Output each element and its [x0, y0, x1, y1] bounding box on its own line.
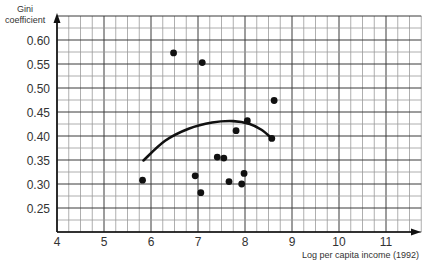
- x-axis-title: Log per capita income (1992): [302, 250, 419, 260]
- x-tick-label: 10: [332, 235, 346, 249]
- data-point: [271, 97, 278, 104]
- y-tick-label: 0.50: [27, 82, 51, 96]
- data-point: [238, 181, 245, 188]
- data-point: [244, 117, 251, 124]
- grid: [57, 16, 421, 232]
- data-point: [220, 155, 227, 162]
- y-tick-label: 0.55: [27, 58, 51, 72]
- data-point: [268, 135, 275, 142]
- x-tick-label: 6: [148, 235, 155, 249]
- data-point: [226, 178, 233, 185]
- y-axis-title-line1: Gini: [17, 4, 33, 14]
- data-point: [197, 189, 204, 196]
- x-tick-labels: 4567891011: [54, 235, 393, 249]
- data-point: [241, 170, 248, 177]
- y-tick-label: 0.45: [27, 106, 51, 120]
- x-tick-label: 5: [101, 235, 108, 249]
- x-tick-label: 8: [242, 235, 249, 249]
- y-tick-labels: 0.250.300.350.400.450.500.550.60: [27, 34, 51, 216]
- gini-income-chart: 4567891011 0.250.300.350.400.450.500.550…: [0, 0, 431, 271]
- data-point: [139, 177, 146, 184]
- x-tick-label: 7: [195, 235, 202, 249]
- data-point: [233, 127, 240, 134]
- x-axis-arrow-icon: [411, 229, 421, 236]
- data-point: [199, 59, 206, 66]
- data-point: [170, 50, 177, 57]
- y-tick-label: 0.40: [27, 130, 51, 144]
- y-tick-label: 0.25: [27, 202, 51, 216]
- x-tick-label: 9: [289, 235, 296, 249]
- y-axis-arrow-icon: [54, 13, 61, 23]
- y-axis-title-line2: coefficient: [5, 15, 46, 25]
- data-point: [214, 154, 221, 161]
- data-point: [192, 172, 199, 179]
- y-tick-label: 0.30: [27, 178, 51, 192]
- y-tick-label: 0.35: [27, 154, 51, 168]
- y-tick-label: 0.60: [27, 34, 51, 48]
- x-tick-label: 11: [380, 235, 393, 249]
- x-tick-label: 4: [54, 235, 61, 249]
